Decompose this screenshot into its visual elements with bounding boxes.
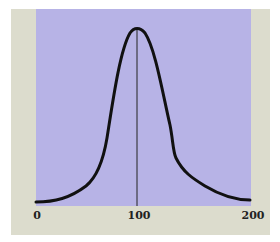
x-tick-200: 200 (242, 209, 265, 222)
x-tick-100: 100 (128, 209, 151, 222)
x-tick-0: 0 (33, 209, 41, 222)
bell-curve (0, 0, 280, 242)
